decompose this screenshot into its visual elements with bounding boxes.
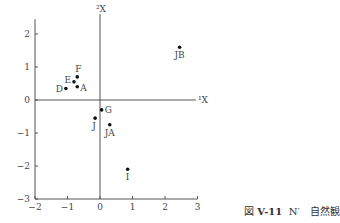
figure-prefix: 図: [244, 206, 254, 217]
data-point: [72, 80, 76, 84]
data-point: [100, 108, 104, 112]
y-tick-label: 1: [24, 62, 30, 72]
point-label: J: [91, 121, 96, 131]
point-label: D: [56, 84, 63, 94]
y-axis-label: ²X: [96, 4, 107, 14]
figure-title: N′ 自然観: [289, 206, 340, 217]
data-point: [64, 87, 68, 91]
x-axis-label: ¹X: [198, 95, 209, 105]
y-tick-label: −2: [17, 161, 30, 171]
data-point: [93, 116, 97, 120]
figure-caption: 図 V-11 N′ 自然観: [244, 203, 340, 218]
x-tick-label: 1: [130, 202, 136, 212]
data-point: [126, 168, 130, 172]
x-tick-label: 2: [162, 202, 168, 212]
y-tick-label: −3: [17, 194, 31, 204]
point-label: F: [75, 64, 81, 74]
y-tick-label: −1: [17, 128, 30, 138]
x-tick-label: 3: [195, 202, 201, 212]
x-tick-label: −2: [28, 202, 41, 212]
point-label: I: [126, 172, 130, 182]
y-tick-label: 2: [24, 29, 30, 39]
data-point: [108, 123, 112, 127]
figure-number: V-11: [257, 206, 282, 217]
data-point: [75, 75, 79, 79]
data-point: [178, 45, 182, 49]
x-tick-label: −1: [61, 202, 74, 212]
y-tick-label: 0: [24, 95, 30, 105]
point-label: E: [64, 75, 71, 85]
x-tick-label: 0: [97, 202, 103, 212]
point-label: JB: [174, 50, 186, 60]
point-label: G: [105, 105, 112, 115]
point-label: JA: [104, 128, 116, 138]
point-label: A: [79, 83, 87, 93]
data-point: [75, 85, 79, 89]
